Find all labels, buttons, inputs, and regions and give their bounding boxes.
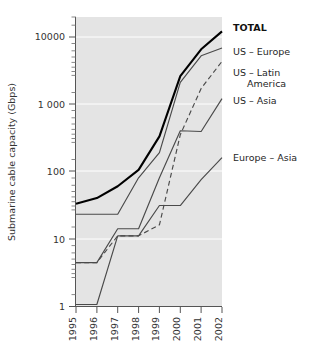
series-label-us-asia: US – Asia [233, 95, 277, 106]
x-tick-label-1997: 1997 [109, 317, 120, 341]
y-axis-title: Submarine cable capacity (Gbps) [6, 83, 17, 241]
x-tick-label-1999: 1999 [150, 317, 161, 341]
series-label-europe-asia: Europe – Asia [233, 152, 297, 163]
series-label-us-latin-america-line1: US – Latin [233, 67, 280, 78]
x-tick-label-2002: 2002 [213, 317, 224, 341]
series-label-total: TOTAL [233, 22, 267, 33]
y-tick-label-10000: 10000 [35, 31, 65, 42]
y-tick-label-100: 100 [47, 166, 65, 177]
y-axis-major-ticks [69, 37, 76, 307]
chart-figure: 10000 1 000 100 10 1 Submarine cable cap… [0, 0, 315, 364]
x-axis-ticks [76, 307, 222, 313]
x-tick-label-2000: 2000 [171, 317, 182, 341]
x-tick-label-1995: 1995 [67, 317, 78, 341]
x-tick-label-1996: 1996 [88, 317, 99, 341]
x-tick-label-1998: 1998 [130, 317, 141, 341]
y-tick-label-1: 1 [59, 301, 65, 312]
plot-area-background [76, 17, 222, 307]
series-label-us-latin-america-line2: America [247, 78, 286, 89]
y-tick-label-10: 10 [53, 234, 65, 245]
submarine-cable-capacity-line-chart: 10000 1 000 100 10 1 Submarine cable cap… [0, 0, 315, 364]
y-tick-label-1000: 1 000 [38, 99, 65, 110]
x-tick-label-2001: 2001 [192, 317, 203, 341]
series-label-us-europe: US – Europe [233, 46, 290, 57]
